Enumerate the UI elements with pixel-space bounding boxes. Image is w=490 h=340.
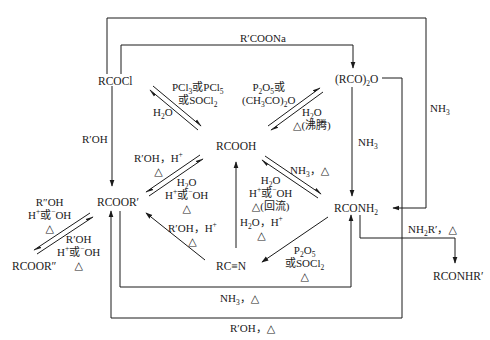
t: NH bbox=[408, 223, 424, 235]
line-2: 或SOCl2 bbox=[172, 94, 224, 107]
line-1: H2O bbox=[249, 174, 292, 187]
t: R′，△ bbox=[428, 223, 457, 235]
t: H bbox=[240, 216, 248, 228]
nh3-sub: 3 bbox=[446, 108, 450, 117]
line-2: H+或−OH bbox=[57, 246, 100, 259]
line-1: H2O bbox=[293, 106, 331, 119]
t: H bbox=[28, 209, 36, 221]
line-1: R′OH，H+ bbox=[168, 222, 217, 235]
line-2: △(沸腾) bbox=[293, 119, 331, 132]
label-amine: NH2R′，△ bbox=[408, 223, 457, 236]
t: O，H bbox=[252, 216, 279, 228]
amide-sub: 2 bbox=[374, 208, 378, 217]
line-1: P2O5或 bbox=[242, 81, 295, 94]
label-anhydride-hydrolysis: H2O △(沸腾) bbox=[293, 106, 331, 132]
node-carboxylic-acid: RCOOH bbox=[216, 140, 256, 153]
t: O bbox=[189, 176, 197, 188]
line-2: △ bbox=[168, 235, 217, 248]
node-secondary-amide: RCONHR′ bbox=[433, 270, 483, 283]
line-1: R′OH bbox=[57, 233, 100, 246]
t: H bbox=[153, 106, 161, 118]
node-nitrile: RC≡N bbox=[216, 260, 246, 273]
label-dehydration: P2O5 或SOCl2 △ bbox=[285, 244, 324, 283]
label-transesterification-rev: R′OH H+或−OH △ bbox=[57, 233, 100, 272]
t: O bbox=[304, 244, 312, 256]
line-3: △ bbox=[165, 202, 208, 215]
t: CO) bbox=[265, 94, 284, 106]
t: PCl bbox=[172, 81, 189, 93]
t: ，△ bbox=[240, 292, 259, 304]
label-ester-hydrolysis: H2O H+或−OH △ bbox=[165, 176, 208, 215]
t: ，△ bbox=[310, 164, 329, 176]
nh3-text: NH bbox=[358, 136, 374, 148]
line-2: H+或−OH bbox=[28, 209, 71, 222]
t: 或SOCl bbox=[285, 257, 320, 269]
line-2: △ bbox=[240, 229, 283, 242]
t: OH bbox=[55, 209, 71, 221]
t: O bbox=[165, 106, 173, 118]
arrow-chloride-to-anhydride bbox=[121, 45, 353, 74]
label-esterification: R′OH，H+ △ bbox=[134, 152, 183, 178]
t: O bbox=[273, 174, 281, 186]
line-1: H2O bbox=[165, 176, 208, 189]
label-nitrile-hydrolysis: H2O，H+ △ bbox=[240, 216, 283, 242]
s: 2 bbox=[320, 263, 324, 272]
s: + bbox=[279, 214, 283, 223]
s: 2 bbox=[214, 100, 218, 109]
s: + bbox=[179, 150, 183, 159]
line-2: H+或−OH bbox=[249, 187, 292, 200]
t: 或 bbox=[274, 81, 285, 93]
node-amide: RCONH2 bbox=[334, 202, 378, 215]
t: 或 bbox=[69, 246, 80, 258]
t: 或SOCl bbox=[178, 94, 213, 106]
amide-text: RCONH bbox=[334, 202, 374, 214]
t: 或PCl bbox=[192, 81, 220, 93]
node-anhydride: (RCO)2O bbox=[335, 73, 378, 86]
t: (CH bbox=[242, 94, 261, 106]
line-1: H2O，H+ bbox=[240, 216, 283, 229]
t: OH bbox=[192, 189, 208, 201]
label-alcoholysis: R′OH，△ bbox=[230, 322, 275, 335]
t: OH bbox=[84, 246, 100, 258]
line-2: 或SOCl2 bbox=[285, 257, 324, 270]
label-chloride-reagents: PCl3或PCl5 或SOCl2 bbox=[172, 81, 224, 107]
label-rcoona: R′COONa bbox=[240, 32, 286, 45]
line-3: △ bbox=[285, 270, 324, 283]
line-1: R″OH bbox=[28, 196, 71, 209]
nh3-sub: 3 bbox=[374, 142, 378, 151]
t: OH bbox=[276, 187, 292, 199]
s: 5 bbox=[220, 87, 224, 96]
t: 或 bbox=[261, 187, 272, 199]
label-amide-hydrolysis: H2O H+或−OH △(回流) bbox=[249, 174, 292, 213]
line-2: (CH3CO)2O bbox=[242, 94, 295, 107]
label-chloride-hydrolysis: H2O bbox=[153, 106, 173, 119]
t: H bbox=[177, 176, 185, 188]
t: H bbox=[302, 106, 310, 118]
label-anhydride-reagents: P2O5或 (CH3CO)2O bbox=[242, 81, 295, 107]
t: R′OH，H bbox=[168, 222, 213, 234]
t: H bbox=[165, 189, 173, 201]
node-ester-2: RCOOR″ bbox=[12, 260, 56, 273]
t: 或 bbox=[177, 189, 188, 201]
label-aminolysis: NH3，△ bbox=[220, 292, 259, 305]
t: 或 bbox=[40, 209, 51, 221]
label-nitrile-alcoholysis: R′OH，H+ △ bbox=[168, 222, 217, 248]
t: NH bbox=[220, 292, 236, 304]
node-acyl-chloride: RCOCl bbox=[98, 75, 133, 88]
anhydride-text: (RCO) bbox=[335, 73, 366, 85]
t: H bbox=[57, 246, 65, 258]
t: R′OH，H bbox=[134, 152, 179, 164]
anhydride-text-2: O bbox=[370, 73, 378, 85]
node-ester: RCOOR′ bbox=[97, 196, 139, 209]
label-roh: R′OH bbox=[82, 133, 108, 146]
line-2: H+或−OH bbox=[165, 189, 208, 202]
label-amidation: NH3，△ bbox=[290, 164, 329, 177]
line-1: R′OH，H+ bbox=[134, 152, 183, 165]
nh3-text: NH bbox=[430, 102, 446, 114]
t: H bbox=[249, 187, 257, 199]
label-nh3-outer: NH3 bbox=[430, 102, 450, 115]
t: NH bbox=[290, 164, 306, 176]
label-nh3-anhydride: NH3 bbox=[358, 136, 378, 149]
line-1: PCl3或PCl5 bbox=[172, 81, 224, 94]
line-1: P2O5 bbox=[285, 244, 324, 257]
